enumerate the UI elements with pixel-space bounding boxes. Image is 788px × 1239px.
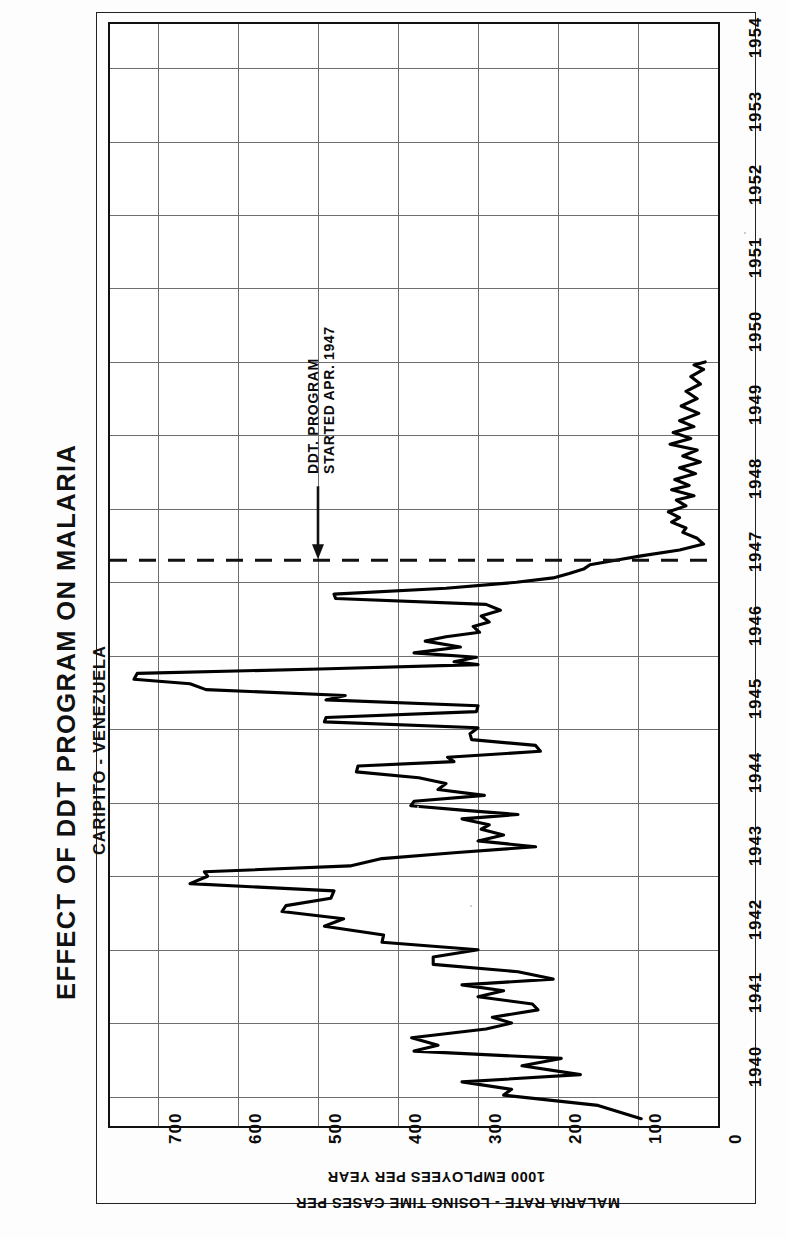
page-title: EFFECT OF DDT PROGRAM ON MALARIA	[52, 444, 81, 1000]
paper-speck	[470, 905, 472, 907]
year-tick-label-1940: 1940	[746, 1045, 765, 1086]
data-series-line	[110, 24, 718, 1126]
year-tick-label-1954: 1954	[746, 17, 765, 58]
year-tick-label-1950: 1950	[746, 311, 765, 352]
chart-page: EFFECT OF DDT PROGRAM ON MALARIA CARIPIT…	[0, 0, 788, 1239]
year-tick-label-1945: 1945	[746, 678, 765, 719]
annotation-line-2: STARTED APR. 1947	[321, 327, 337, 475]
plot-area	[108, 22, 720, 1128]
value-gridline-0	[718, 24, 719, 1126]
value-tick-label-200: 200	[566, 1113, 586, 1144]
year-tick-label-1949: 1949	[746, 384, 765, 425]
year-tick-label-1943: 1943	[746, 825, 765, 866]
year-tick-label-1944: 1944	[746, 751, 765, 792]
value-tick-label-300: 300	[486, 1113, 506, 1144]
value-axis-caption-line-2: 1000 EMPLOYEES PER YEAR	[327, 1169, 545, 1185]
year-tick-label-1951: 1951	[746, 237, 765, 278]
year-tick-label-1941: 1941	[746, 972, 765, 1013]
value-axis-caption-line-1: MALARIA RATE - LOSING TIME CASES PER	[295, 1195, 620, 1211]
year-tick-label-1953: 1953	[746, 90, 765, 131]
value-tick-label-400: 400	[406, 1113, 426, 1144]
value-tick-label-600: 600	[246, 1113, 266, 1144]
value-tick-label-500: 500	[326, 1113, 346, 1144]
paper-speck	[744, 232, 746, 234]
year-tick-label-1942: 1942	[746, 898, 765, 939]
annotation-line-1: DDT. PROGRAM	[305, 359, 321, 475]
year-tick-label-1952: 1952	[746, 164, 765, 205]
paper-speck	[417, 806, 419, 808]
value-tick-label-700: 700	[166, 1113, 186, 1144]
year-tick-label-1947: 1947	[746, 531, 765, 572]
year-tick-label-1946: 1946	[746, 604, 765, 645]
value-tick-label-0: 0	[726, 1134, 746, 1144]
value-tick-label-100: 100	[646, 1113, 666, 1144]
year-tick-label-1948: 1948	[746, 458, 765, 499]
subtitle-location: CARIPITO - VENEZUELA	[90, 645, 109, 855]
